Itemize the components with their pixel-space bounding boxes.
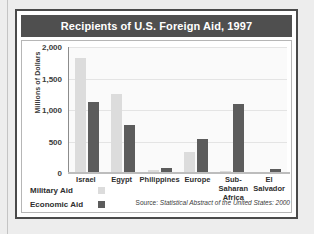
x-axis-label: Europe: [180, 175, 216, 202]
chart-plot-area: Millions of Dollars 2,000 1,500 1,000 50…: [22, 41, 293, 181]
bar-military: [184, 152, 195, 173]
bar-economic: [233, 104, 244, 173]
x-axis-label: Sub-Saharan Africa: [215, 175, 251, 202]
legend-label-military: Military Aid: [30, 186, 98, 195]
bar-economic: [197, 139, 208, 173]
legend-label-economic: Economic Aid: [30, 200, 98, 209]
legend-swatch-military-icon: [98, 187, 105, 194]
legend-swatch-economic-icon: [98, 201, 105, 208]
chart-inner-frame: Millions of Dollars 2,000 1,500 1,000 50…: [21, 40, 292, 213]
y-tick-label: 500: [28, 137, 62, 146]
bars-container: [68, 47, 287, 173]
chart-legend: Military Aid Economic Aid: [30, 183, 150, 211]
bar-group: [251, 47, 287, 173]
bar-military: [75, 58, 86, 173]
x-axis-baseline: [68, 172, 290, 174]
chart-figure: Recipients of U.S. Foreign Aid, 1997 Mil…: [15, 9, 298, 219]
bar-group: [105, 47, 141, 173]
x-axis-label: El Salvador: [251, 175, 287, 202]
page-title: Recipients of U.S. Foreign Aid, 1997: [61, 20, 252, 32]
bar-group: [214, 47, 250, 173]
bar-group: [142, 47, 178, 173]
y-axis-ticks: 2,000 1,500 1,000 500 0: [28, 41, 62, 181]
y-tick-label: 0: [28, 169, 62, 178]
y-tick-label: 1,000: [28, 106, 62, 115]
bar-groups: [69, 47, 287, 173]
page-margin-rule: [7, 0, 8, 234]
bar-group: [69, 47, 105, 173]
bar-military: [111, 94, 122, 173]
chart-title-bar: Recipients of U.S. Foreign Aid, 1997: [21, 15, 292, 37]
y-tick-label: 2,000: [28, 43, 62, 52]
source-note: Source: Statistical Abstract of the Unit…: [132, 199, 290, 206]
page-background: Recipients of U.S. Foreign Aid, 1997 Mil…: [0, 0, 314, 234]
source-prefix: Source:: [136, 199, 160, 206]
legend-item-military: Military Aid: [30, 183, 150, 197]
y-tick-label: 1,500: [28, 74, 62, 83]
bar-economic: [88, 102, 99, 173]
source-title: Statistical Abstract of the United State…: [160, 199, 290, 206]
bar-economic: [124, 125, 135, 174]
bar-group: [178, 47, 214, 173]
